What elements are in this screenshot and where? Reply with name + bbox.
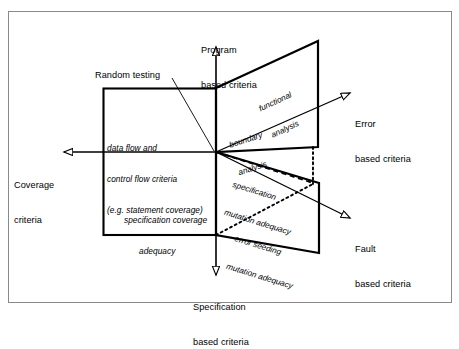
label-functional-analysis-line2: analysis bbox=[270, 117, 306, 141]
label-spec-mutation-line1: specification bbox=[231, 180, 300, 210]
axis-label-error-line2: based criteria bbox=[355, 154, 411, 166]
axis-label-specification-line2: based criteria bbox=[193, 337, 249, 349]
axis-label-program: Program based criteria bbox=[201, 22, 257, 114]
axis-label-error-line1: Error bbox=[355, 119, 411, 131]
callout-random-testing: Random testing bbox=[95, 70, 160, 82]
label-boundary-analysis-line1: boundary bbox=[228, 130, 264, 150]
text-spec-coverage-line1: specification coverage bbox=[124, 215, 207, 225]
axis-label-fault-line2: based criteria bbox=[355, 279, 411, 291]
axis-label-fault: Fault based criteria bbox=[355, 221, 411, 313]
axis-label-coverage-line2: criteria bbox=[14, 215, 54, 227]
axis-label-coverage: Coverage criteria bbox=[14, 157, 54, 249]
axis-label-fault-line1: Fault bbox=[355, 244, 411, 256]
label-error-seeding-line2: mutation adequacy bbox=[225, 262, 294, 292]
axis-label-program-line2: based criteria bbox=[201, 80, 257, 92]
label-functional-analysis-line1: functional bbox=[257, 90, 293, 114]
text-data-flow-line1: data flow and bbox=[107, 143, 203, 153]
axis-label-coverage-line1: Coverage bbox=[14, 180, 54, 192]
label-error-seeding-line1: error seeding bbox=[233, 234, 302, 264]
text-data-flow-line2: control flow criteria bbox=[107, 174, 203, 184]
text-specification-coverage-adequacy: specification coverage adequacy bbox=[124, 194, 207, 277]
text-spec-coverage-line2: adequacy bbox=[124, 246, 207, 256]
axis-label-specification-line1: Specification bbox=[193, 302, 249, 314]
axis-label-program-line1: Program bbox=[201, 45, 257, 57]
axis-label-error: Error based criteria bbox=[355, 96, 411, 188]
